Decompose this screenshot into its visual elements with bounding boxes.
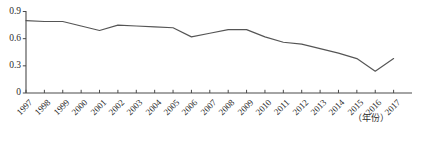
line-chart-figure: 00.30.60.9 19971998199920002001200220032… xyxy=(0,0,433,141)
data-series-line xyxy=(26,21,394,72)
x-axis-ticks xyxy=(26,90,394,93)
y-axis-tick-label: 0.3 xyxy=(0,61,21,71)
y-axis-tick-label: 0.9 xyxy=(0,7,21,17)
y-axis-tick-label: 0.6 xyxy=(0,34,21,44)
x-axis-unit-label: （年份） xyxy=(353,114,389,123)
y-axis-tick-label: 0 xyxy=(0,88,21,98)
